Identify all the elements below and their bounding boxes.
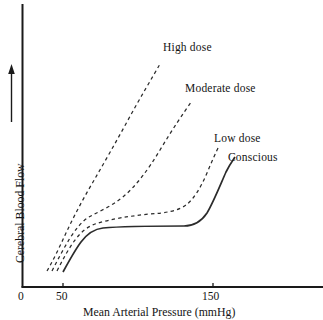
curve-label-low-dose: Low dose [214, 132, 261, 144]
y-axis-title: Cerebral Blood Flow [13, 163, 28, 263]
x-tick-label-150: 150 [202, 290, 219, 302]
x-tick-label-0: 0 [18, 290, 24, 302]
curve-low-dose [57, 146, 219, 271]
curve-moderate-dose [52, 101, 192, 271]
curve-label-conscious: Conscious [228, 151, 278, 163]
cerebral-autoregulation-chart: High dose Moderate dose Low dose Conscio… [0, 0, 323, 320]
x-tick-label-50: 50 [56, 290, 68, 302]
x-axis-title: Mean Arterial Pressure (mmHg) [83, 305, 235, 320]
y-axis-arrow-icon [8, 64, 15, 122]
curve-label-moderate-dose: Moderate dose [185, 82, 256, 94]
curve-conscious [63, 157, 235, 272]
curve-label-high-dose: High dose [163, 41, 212, 53]
curve-high-dose [47, 64, 160, 271]
